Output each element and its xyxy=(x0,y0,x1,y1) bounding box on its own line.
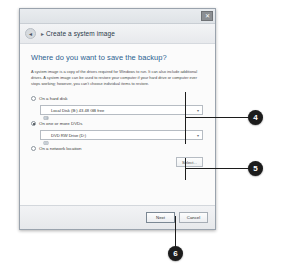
hard-disk-icon xyxy=(43,107,49,113)
option-group-dvd: On one or more DVDs DVD RW Drive (D:) ▾ xyxy=(31,121,204,140)
back-button[interactable]: ◂ xyxy=(25,28,36,39)
callout-4: 4 xyxy=(248,110,263,125)
callout-4-leader xyxy=(185,117,254,118)
radio-option-network[interactable]: On a network location xyxy=(31,146,204,151)
chevron-right-icon: ▸ xyxy=(41,30,44,37)
callout-5-bracket xyxy=(185,158,186,180)
breadcrumb: Create a system image xyxy=(46,30,115,37)
callout-6: 6 xyxy=(168,246,183,261)
callout-4-bracket xyxy=(185,92,186,144)
dialog-footer: Next Cancel xyxy=(20,205,215,229)
back-arrow-icon: ◂ xyxy=(29,31,32,37)
chevron-down-icon[interactable]: ▾ xyxy=(193,106,202,114)
radio-hard-disk-icon[interactable] xyxy=(31,96,36,101)
radio-option-hard-disk[interactable]: On a hard disk xyxy=(31,96,204,101)
screenshot-root: ✕ ◂ ▸ Create a system image Where do you… xyxy=(0,0,290,279)
next-button[interactable]: Next xyxy=(146,212,175,223)
hard-disk-dropdown[interactable]: Local Disk (B:) 43.48 GB free ▾ xyxy=(40,105,203,115)
radio-network-label: On a network location xyxy=(39,146,81,151)
dvd-dropdown[interactable]: DVD RW Drive (D:) ▾ xyxy=(40,130,203,140)
cancel-button[interactable]: Cancel xyxy=(179,212,208,223)
radio-dvd-icon[interactable] xyxy=(31,121,36,126)
option-group-hard-disk: On a hard disk Local Disk (B:) 43.48 GB … xyxy=(31,96,204,115)
create-system-image-dialog: ✕ ◂ ▸ Create a system image Where do you… xyxy=(19,8,216,230)
callout-5-leader xyxy=(185,168,254,169)
chevron-down-icon[interactable]: ▾ xyxy=(193,131,202,139)
callout-5-number: 5 xyxy=(253,164,257,173)
callout-4-number: 4 xyxy=(253,113,257,122)
radio-dvd-label: On one or more DVDs xyxy=(39,121,82,126)
network-field-row: Select... xyxy=(40,157,203,167)
radio-option-dvd[interactable]: On one or more DVDs xyxy=(31,121,204,126)
callout-5: 5 xyxy=(248,161,263,176)
wizard-header: ◂ ▸ Create a system image xyxy=(20,24,215,44)
radio-network-icon[interactable] xyxy=(31,146,36,151)
window-titlebar: ✕ xyxy=(20,9,215,24)
callout-6-number: 6 xyxy=(173,249,177,258)
description-text: A system image is a copy of the drives r… xyxy=(31,69,203,87)
close-button[interactable]: ✕ xyxy=(201,11,213,21)
page-title: Where do you want to save the backup? xyxy=(31,53,204,62)
callout-6-leader xyxy=(175,216,176,248)
dvd-drive-icon xyxy=(43,132,49,138)
close-icon: ✕ xyxy=(205,13,210,19)
option-group-network: On a network location Select... xyxy=(31,146,204,167)
select-network-button[interactable]: Select... xyxy=(176,157,203,167)
dvd-dropdown-value: DVD RW Drive (D:) xyxy=(51,133,193,138)
radio-hard-disk-label: On a hard disk xyxy=(39,96,68,101)
hard-disk-dropdown-value: Local Disk (B:) 43.48 GB free xyxy=(51,108,193,113)
